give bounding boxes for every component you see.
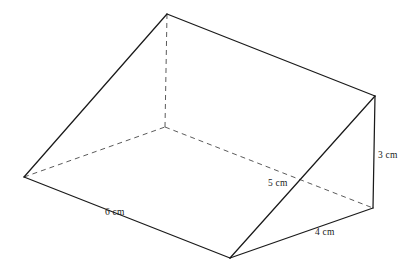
height-label: 3 cm: [378, 151, 398, 161]
base-width-label: 4 cm: [315, 228, 335, 238]
prism-drawing: [0, 0, 413, 276]
slant-label: 5 cm: [268, 179, 288, 189]
geometry-figure-canvas: 6 cm 5 cm 4 cm 3 cm: [0, 0, 413, 276]
length-label: 6 cm: [105, 208, 125, 218]
top-slanted-face: [24, 14, 375, 258]
